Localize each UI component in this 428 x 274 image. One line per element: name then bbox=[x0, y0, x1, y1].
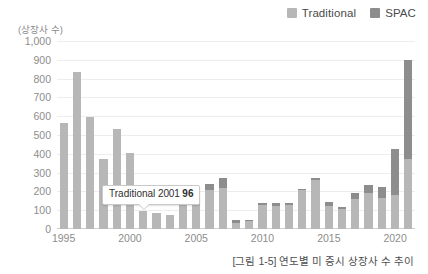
bar-column[interactable] bbox=[113, 129, 121, 229]
x-axis-tick-label: 2005 bbox=[185, 233, 208, 244]
bar-column[interactable] bbox=[73, 72, 81, 229]
bar-column[interactable] bbox=[139, 211, 147, 229]
bar-segment-spac[interactable] bbox=[404, 60, 412, 160]
bar-segment-spac[interactable] bbox=[391, 149, 399, 196]
bar-segment-traditional[interactable] bbox=[258, 205, 266, 229]
bar-column[interactable] bbox=[325, 202, 333, 229]
figure-container: Traditional SPAC (상장사 수) 1,0009008007006… bbox=[0, 0, 428, 274]
bar-segment-spac[interactable] bbox=[205, 184, 213, 191]
y-axis-tick-label: 300 bbox=[33, 167, 51, 178]
y-axis-tick-label: 1,000 bbox=[25, 36, 51, 47]
bar-column[interactable] bbox=[311, 178, 319, 229]
bar-segment-traditional[interactable] bbox=[86, 117, 94, 229]
bar-segment-traditional[interactable] bbox=[73, 72, 81, 229]
bar-segment-traditional[interactable] bbox=[364, 193, 372, 229]
legend-label-traditional: Traditional bbox=[302, 7, 356, 19]
y-axis-tick-label: 800 bbox=[33, 73, 51, 84]
bar-column[interactable] bbox=[258, 203, 266, 229]
x-axis-tick-label: 2020 bbox=[383, 233, 406, 244]
bar-column[interactable] bbox=[60, 123, 68, 229]
bar-segment-traditional[interactable] bbox=[311, 180, 319, 229]
bar-segment-spac[interactable] bbox=[378, 187, 386, 198]
y-axis-tick-label: 900 bbox=[33, 55, 51, 66]
bar-segment-traditional[interactable] bbox=[152, 213, 160, 229]
bar-column[interactable] bbox=[391, 149, 399, 229]
bar-column[interactable] bbox=[338, 207, 346, 229]
bar-segment-traditional[interactable] bbox=[325, 206, 333, 230]
x-axis-tick-label: 1995 bbox=[52, 233, 75, 244]
legend-item-traditional[interactable]: Traditional bbox=[287, 7, 356, 19]
y-axis-tick-label: 600 bbox=[33, 111, 51, 122]
bar-column[interactable] bbox=[351, 193, 359, 229]
bar-segment-traditional[interactable] bbox=[166, 215, 174, 229]
x-axis-tick-label: 2015 bbox=[317, 233, 340, 244]
bar-segment-traditional[interactable] bbox=[205, 190, 213, 229]
bar-column[interactable] bbox=[219, 178, 227, 229]
chart-legend: Traditional SPAC bbox=[287, 7, 416, 19]
bar-segment-traditional[interactable] bbox=[351, 199, 359, 229]
bar-segment-traditional[interactable] bbox=[298, 190, 306, 229]
bar-segment-traditional[interactable] bbox=[338, 209, 346, 229]
tooltip-arrow-icon bbox=[139, 204, 149, 209]
y-axis-tick-label: 100 bbox=[33, 205, 51, 216]
bar-segment-traditional[interactable] bbox=[113, 129, 121, 229]
bar-segment-traditional[interactable] bbox=[378, 198, 386, 229]
bar-column[interactable] bbox=[364, 185, 372, 229]
bar-column[interactable] bbox=[298, 189, 306, 229]
y-axis-tick-label: 500 bbox=[33, 130, 51, 141]
bar-column[interactable] bbox=[232, 220, 240, 229]
y-axis-tick-label: 700 bbox=[33, 92, 51, 103]
bar-segment-traditional[interactable] bbox=[391, 195, 399, 229]
bar-segment-spac[interactable] bbox=[364, 185, 372, 194]
bar-column[interactable] bbox=[245, 220, 253, 229]
bar-segment-traditional[interactable] bbox=[245, 221, 253, 229]
legend-label-spac: SPAC bbox=[385, 7, 416, 19]
legend-swatch-icon-spac bbox=[370, 8, 380, 18]
bar-segment-traditional[interactable] bbox=[272, 206, 280, 230]
bar-segment-traditional[interactable] bbox=[139, 211, 147, 229]
bar-segment-traditional[interactable] bbox=[60, 123, 68, 229]
bar-segment-spac[interactable] bbox=[219, 178, 227, 188]
bar-segment-traditional[interactable] bbox=[285, 205, 293, 229]
tooltip-series-label: Traditional bbox=[109, 188, 155, 199]
figure-caption: [그림 1-5] 연도별 미 증시 상장사 수 추이 bbox=[233, 253, 414, 268]
bar-segment-traditional[interactable] bbox=[232, 223, 240, 229]
bar-segment-traditional[interactable] bbox=[219, 188, 227, 229]
tooltip-year: 2001 bbox=[158, 188, 179, 199]
data-tooltip[interactable]: Traditional 2001 96 bbox=[102, 185, 200, 205]
bar-column[interactable] bbox=[205, 184, 213, 229]
bar-column[interactable] bbox=[378, 187, 386, 229]
legend-swatch-icon-traditional bbox=[287, 8, 297, 18]
bar-column[interactable] bbox=[152, 213, 160, 229]
x-axis-tick-label: 2000 bbox=[118, 233, 141, 244]
x-axis-tick-label: 2010 bbox=[251, 233, 274, 244]
tooltip-value: 96 bbox=[182, 188, 193, 199]
bar-column[interactable] bbox=[86, 117, 94, 229]
bar-segment-traditional[interactable] bbox=[404, 159, 412, 229]
y-axis-tick-label: 200 bbox=[33, 186, 51, 197]
bar-column[interactable] bbox=[404, 60, 412, 229]
y-axis-tick-label: 400 bbox=[33, 149, 51, 160]
bar-column[interactable] bbox=[166, 215, 174, 229]
bar-column[interactable] bbox=[285, 203, 293, 229]
y-axis-tick-label: 0 bbox=[45, 224, 51, 235]
legend-item-spac[interactable]: SPAC bbox=[370, 7, 416, 19]
bar-column[interactable] bbox=[272, 203, 280, 229]
